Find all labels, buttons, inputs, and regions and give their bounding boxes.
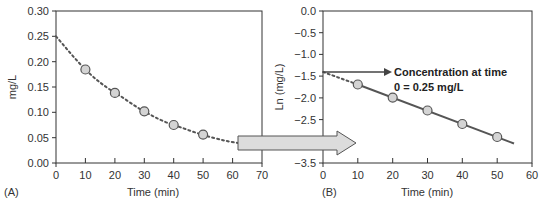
annotation-line-1: Concentration at time — [394, 66, 507, 78]
data-point — [493, 133, 502, 142]
x-tick-label: 10 — [79, 169, 91, 181]
y-tick-label: 0.30 — [28, 5, 49, 17]
chart-a-markers — [81, 65, 208, 139]
x-tick-label: 60 — [526, 169, 538, 181]
chart-b-y-label: Ln (mg/L) — [273, 63, 285, 110]
data-point — [199, 130, 208, 139]
data-point — [140, 107, 149, 116]
chart-b-fit-line — [358, 85, 514, 144]
data-point — [169, 121, 178, 130]
chart-b: 0.0 −0.5 −1.0 −1.5 −2.0 −2.5 −3.5 0 10 2… — [273, 5, 538, 198]
y-tick-label: 0.25 — [28, 30, 49, 42]
x-tick-label: 0 — [320, 169, 326, 181]
x-tick-label: 30 — [138, 169, 150, 181]
annotation-arrow-head-icon — [384, 68, 392, 76]
panel-b-label: (B) — [322, 186, 337, 198]
y-tick-label: 0.00 — [28, 157, 49, 169]
x-tick-label: 40 — [456, 169, 468, 181]
figure: 0.30 0.25 0.20 0.15 0.10 0.05 0.00 0 10 … — [0, 0, 545, 207]
panel-a-label: (A) — [4, 186, 19, 198]
x-tick-label: 50 — [491, 169, 503, 181]
data-point — [388, 93, 397, 102]
data-point — [110, 88, 119, 97]
y-tick-label: −1.0 — [294, 48, 316, 60]
data-point — [458, 120, 467, 129]
y-tick-label: −2.0 — [294, 92, 316, 104]
x-tick-label: 60 — [226, 169, 238, 181]
chart-a-x-label: Time (min) — [127, 186, 179, 198]
data-point — [81, 65, 90, 74]
x-tick-label: 70 — [256, 169, 268, 181]
data-point — [353, 80, 362, 89]
chart-b-x-label: Time (min) — [401, 186, 453, 198]
x-tick-label: 20 — [387, 169, 399, 181]
chart-a-fit-curve — [56, 36, 238, 143]
y-tick-label: 0.0 — [301, 5, 316, 17]
chart-b-x-tick-labels: 0 10 20 30 40 50 60 — [320, 169, 538, 181]
chart-a-frame — [56, 11, 262, 163]
y-tick-label: 0.20 — [28, 56, 49, 68]
y-tick-label: 0.05 — [28, 132, 49, 144]
chart-a: 0.30 0.25 0.20 0.15 0.10 0.05 0.00 0 10 … — [4, 5, 268, 198]
y-tick-label: 0.15 — [28, 81, 49, 93]
x-tick-label: 30 — [421, 169, 433, 181]
x-tick-label: 50 — [197, 169, 209, 181]
y-tick-label: −2.5 — [294, 114, 316, 126]
y-tick-label: −0.5 — [294, 27, 316, 39]
x-tick-label: 20 — [109, 169, 121, 181]
y-tick-label: −3.5 — [294, 157, 316, 169]
x-tick-label: 10 — [352, 169, 364, 181]
chart-a-y-label: mg/L — [6, 75, 18, 99]
data-point — [423, 106, 432, 115]
y-tick-label: 0.10 — [28, 106, 49, 118]
transform-arrow-icon — [238, 131, 356, 155]
chart-a-y-tick-labels: 0.30 0.25 0.20 0.15 0.10 0.05 0.00 — [28, 5, 49, 169]
chart-a-y-axis — [52, 11, 56, 163]
annotation-line-2: 0 = 0.25 mg/L — [394, 81, 464, 93]
chart-a-x-tick-labels: 0 10 20 30 40 50 60 70 — [53, 169, 268, 181]
y-tick-label: −1.5 — [294, 70, 316, 82]
x-tick-label: 0 — [53, 169, 59, 181]
chart-b-extrapolation-line — [323, 72, 358, 85]
x-tick-label: 40 — [168, 169, 180, 181]
